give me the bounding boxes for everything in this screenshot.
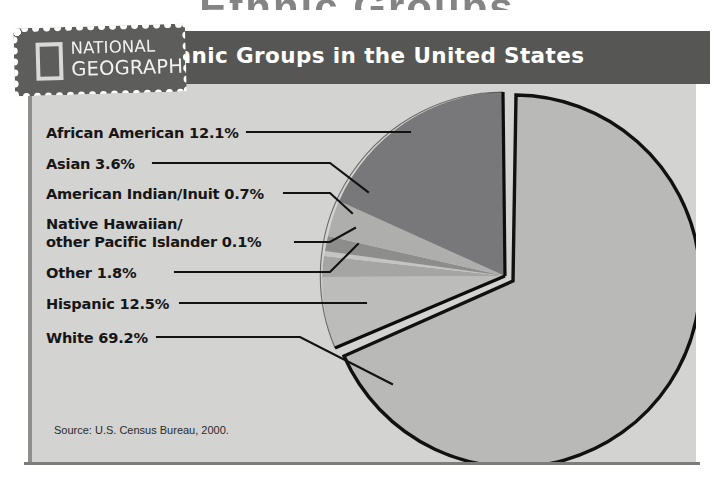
stamp-notch [108,22,115,29]
callout-label-white: White 69.2% [46,330,148,346]
stamp-notch [163,21,170,28]
stamp-notch [31,24,38,31]
callout-label-asian: Asian 3.6% [46,156,135,172]
stamp-notch [42,24,49,31]
stamp-notch [152,21,159,28]
callout-label-other: Other 1.8% [46,265,136,281]
stamp-notch [64,23,71,30]
stamp-notch [75,23,82,30]
stamp-notch [119,22,126,29]
stamp-notch [11,80,18,87]
stamp-notch [130,21,137,28]
callout-label-african-american: African American 12.1% [46,125,239,141]
natgeo-rectangle-icon [35,42,63,81]
stamp-notch [11,91,18,98]
stamp-notch [181,20,188,27]
stamp-notch [9,25,16,32]
callout-label-american-indian-inuit: American Indian/Inuit 0.7% [46,186,264,202]
stamp-notch [141,21,148,28]
stamp-notch [10,47,17,54]
chart-figure: Ethnic Groups [0,0,714,478]
stamp-notch [97,22,104,29]
stamp-notch [53,24,60,31]
stamp-notch [174,20,181,27]
natgeo-line-1: NATIONAL [70,36,155,57]
stamp-notch [20,25,27,32]
callout-label-hispanic: Hispanic 12.5% [46,296,169,312]
callout-label-native-hawaiian-line1: Native Hawaiian/ [46,216,182,232]
panel-bottom-rule [24,462,700,465]
stamp-notch [86,23,93,30]
page-title: Ethnic Groups in the United States [150,43,710,68]
source-note: Source: U.S. Census Bureau, 2000. [54,424,229,436]
stamp-notch [10,58,17,65]
national-geographic-logo: NATIONAL GEOGRAPHIC [13,24,187,97]
stamp-notch [10,36,17,43]
page-bleed-text: Ethnic Groups [0,0,714,10]
callout-label-native-hawaiian-line2: other Pacific Islander 0.1% [46,234,262,250]
stamp-notch [11,69,18,76]
